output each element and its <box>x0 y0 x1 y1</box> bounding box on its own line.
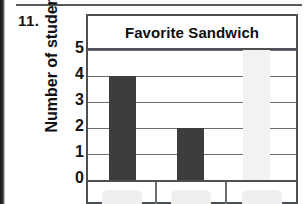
chart-title: Favorite Sandwich <box>125 24 259 41</box>
category-axis-strip <box>88 182 296 204</box>
y-tick-label: 3 <box>62 92 84 108</box>
chart-frame: Favorite Sandwich <box>86 14 298 204</box>
problem-number: 11. <box>18 12 40 29</box>
y-axis-title: Number of students <box>41 0 63 133</box>
category-cell <box>88 182 157 204</box>
y-tick-label: 2 <box>62 118 84 134</box>
bar <box>177 128 204 180</box>
scan-left-edge-artifact <box>0 0 5 204</box>
category-thumbnail <box>102 190 142 204</box>
chart-title-band: Favorite Sandwich <box>88 16 296 50</box>
category-cell <box>157 182 227 204</box>
bar <box>109 76 136 180</box>
bar <box>243 50 270 180</box>
y-tick-label: 5 <box>62 40 84 56</box>
y-tick-label: 0 <box>62 170 84 186</box>
y-tick-label: 4 <box>62 66 84 82</box>
y-axis-tick-labels: 543210 <box>62 36 84 192</box>
category-cell <box>227 182 296 204</box>
category-thumbnail <box>171 190 211 204</box>
y-tick-label: 1 <box>62 144 84 160</box>
category-thumbnail <box>242 190 282 204</box>
plot-area <box>88 50 296 182</box>
